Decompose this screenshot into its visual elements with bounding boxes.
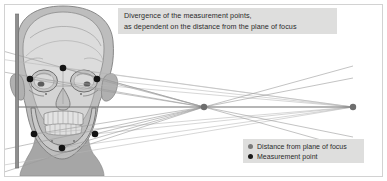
title-line-2: as dependent on the distance from the pl… <box>124 22 331 33</box>
measurement-point-right-gonion <box>31 131 38 138</box>
measurement-point-nasion <box>60 65 67 72</box>
measurement-point-gnathion <box>59 145 66 152</box>
legend-label-distance: Distance from plane of focus <box>257 142 347 151</box>
legend-label-measurement: Measurement point <box>257 152 318 161</box>
legend-item-distance: Distance from plane of focus <box>248 142 364 151</box>
measurement-point-right-orbit <box>27 76 34 83</box>
figure-container: Divergence of the measurement points, as… <box>0 0 387 181</box>
near-convergence-point <box>201 104 207 110</box>
gray-dot-icon <box>248 144 253 149</box>
title-banner: Divergence of the measurement points, as… <box>118 8 337 34</box>
legend-item-measurement: Measurement point <box>248 152 364 161</box>
measurement-point-left-orbit <box>94 76 101 83</box>
black-dot-icon <box>248 154 253 159</box>
far-convergence-point <box>350 104 356 110</box>
plane-of-focus-bar <box>16 14 19 168</box>
measurement-point-left-gonion <box>92 131 99 138</box>
title-line-1: Divergence of the measurement points, <box>124 11 331 22</box>
legend: Distance from plane of focus Measurement… <box>243 139 364 163</box>
